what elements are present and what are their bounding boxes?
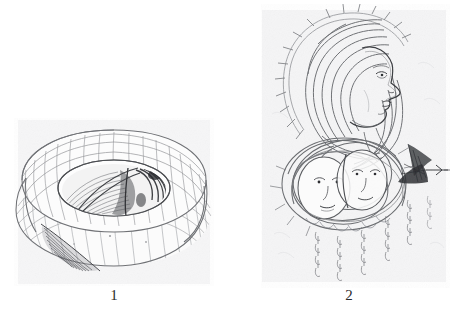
figure-2 xyxy=(258,4,450,288)
figure-2-caption: 2 xyxy=(329,285,369,305)
figure-1-caption: 1 xyxy=(94,285,134,305)
small-face-right xyxy=(337,150,387,210)
plate-container: 1 2 xyxy=(0,0,455,323)
figure-2-drawing xyxy=(258,4,450,288)
figure-1 xyxy=(14,118,214,286)
figure-1-drawing xyxy=(14,118,214,286)
